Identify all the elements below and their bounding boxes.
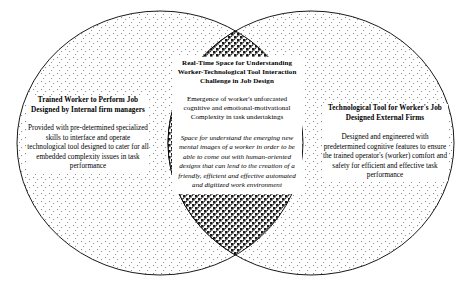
right-circle-text-panel: Technological Tool for Worker's Job Desi… xyxy=(322,104,448,181)
venn-diagram: Trained Worker to Perform Job Designed b… xyxy=(0,0,471,288)
intersection-title: Real-Time Space for Understanding Worker… xyxy=(173,59,301,87)
intersection-body-italic: Space for understand the emerging new me… xyxy=(173,134,301,191)
left-circle-text-panel: Trained Worker to Perform Job Designed b… xyxy=(27,96,149,172)
right-circle-title: Technological Tool for Worker's Job Desi… xyxy=(322,104,448,123)
left-circle-title: Trained Worker to Perform Job Designed b… xyxy=(27,96,149,115)
right-circle-body: Designed and engineered with predetermin… xyxy=(322,133,448,181)
intersection-text-panel: Real-Time Space for Understanding Worker… xyxy=(172,57,302,194)
left-circle-body: Provided with pre-determined specialized… xyxy=(27,124,149,172)
intersection-body: Emergence of worker's unforcasted cognit… xyxy=(173,95,301,123)
